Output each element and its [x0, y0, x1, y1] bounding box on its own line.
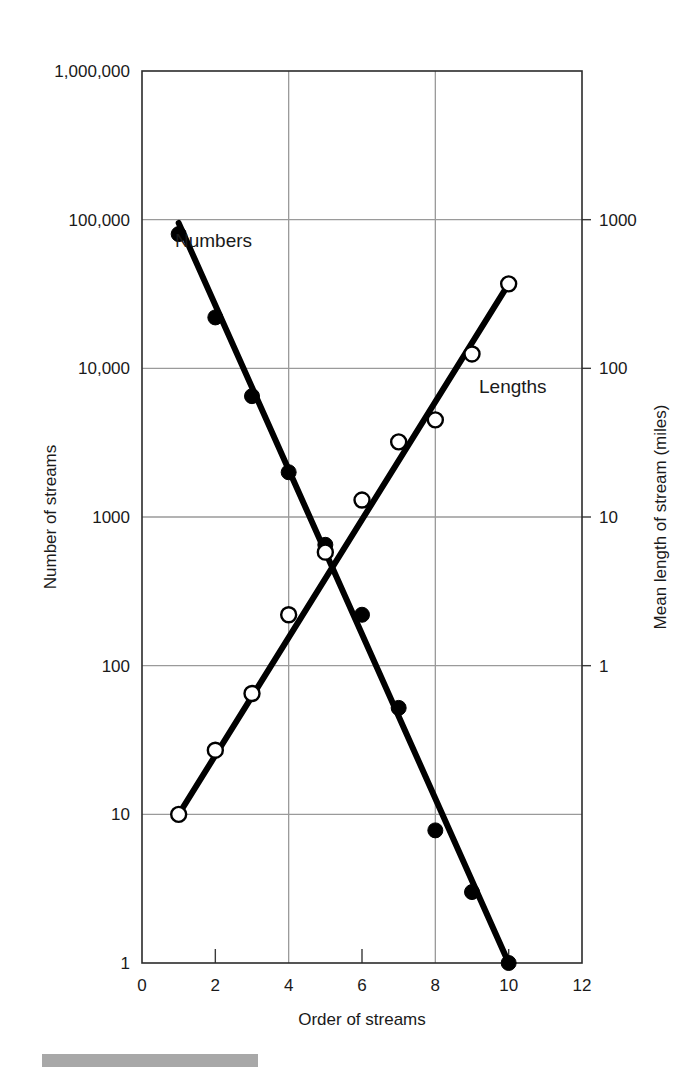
x-axis-tick-label: 4: [284, 976, 293, 995]
data-point-lengths: [355, 493, 370, 508]
chart-svg: 110100100010,000100,0001,000,00011010010…: [0, 0, 697, 1081]
data-point-lengths: [428, 412, 443, 427]
x-axis-tick-label: 0: [137, 976, 146, 995]
right-axis-tick-label: 10: [599, 508, 618, 527]
data-point-lengths: [501, 276, 516, 291]
x-axis-title: Order of streams: [298, 1010, 426, 1029]
data-point-lengths: [391, 434, 406, 449]
left-axis-tick-label: 10: [111, 805, 130, 824]
data-point-numbers: [281, 465, 296, 480]
data-point-lengths: [465, 346, 480, 361]
x-axis-tick-label: 2: [211, 976, 220, 995]
x-axis-tick-label: 8: [431, 976, 440, 995]
footer-gray-bar: [42, 1054, 258, 1067]
data-point-lengths: [171, 807, 186, 822]
right-axis-tick-label: 100: [599, 359, 627, 378]
data-point-lengths: [245, 686, 260, 701]
left-axis-tick-label: 100,000: [69, 211, 130, 230]
data-point-numbers: [501, 956, 516, 971]
data-point-numbers: [208, 310, 223, 325]
left-axis-tick-label: 1000: [92, 508, 130, 527]
left-axis-tick-label: 100: [102, 657, 130, 676]
right-axis-title: Mean length of stream (miles): [651, 405, 670, 630]
stream-order-chart-figure: 110100100010,000100,0001,000,00011010010…: [0, 0, 697, 1081]
trend-line-lengths: [179, 284, 509, 814]
data-point-lengths: [281, 607, 296, 622]
right-axis-tick-label: 1: [599, 657, 608, 676]
trend-line-numbers: [179, 223, 509, 963]
series-label-numbers: Numbers: [175, 230, 252, 251]
x-axis-tick-label: 6: [357, 976, 366, 995]
data-point-numbers: [391, 700, 406, 715]
right-axis-tick-label: 1000: [599, 211, 637, 230]
data-point-numbers: [465, 885, 480, 900]
series-label-lengths: Lengths: [479, 376, 547, 397]
data-point-numbers: [245, 389, 260, 404]
data-point-numbers: [355, 607, 370, 622]
x-axis-tick-label: 12: [573, 976, 592, 995]
data-point-lengths: [208, 743, 223, 758]
data-point-numbers: [428, 823, 443, 838]
left-axis-tick-label: 10,000: [78, 359, 130, 378]
x-axis-tick-label: 10: [499, 976, 518, 995]
data-point-lengths: [318, 545, 333, 560]
left-axis-title: Number of streams: [41, 445, 60, 590]
left-axis-tick-label: 1: [121, 954, 130, 973]
left-axis-tick-label: 1,000,000: [54, 62, 130, 81]
